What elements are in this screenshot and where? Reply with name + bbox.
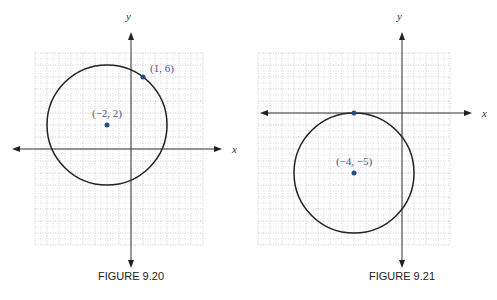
arrow-right-icon [464, 110, 472, 116]
grid [258, 53, 450, 245]
point-label: (−2, 2) [92, 107, 122, 120]
y-axis-label: y [125, 10, 131, 22]
figure-2: xy(−4, −5)FIGURE 9.21 [258, 10, 487, 282]
x-axis-label: x [481, 107, 487, 119]
point-label: (−4, −5) [336, 155, 373, 168]
point [352, 111, 357, 116]
arrow-down-icon [399, 260, 405, 268]
arrow-down-icon [128, 260, 134, 268]
arrow-up-icon [399, 32, 405, 40]
y-axis-label: y [396, 10, 402, 22]
arrow-up-icon [128, 32, 134, 40]
point-label: (1, 6) [150, 62, 174, 75]
figure-caption: FIGURE 9.20 [98, 270, 164, 282]
figure-caption: FIGURE 9.21 [369, 270, 435, 282]
point [352, 171, 357, 176]
arrow-right-icon [214, 146, 222, 152]
x-axis-label: x [231, 143, 237, 155]
figure-1: xy(−2, 2)(1, 6)FIGURE 9.20 [12, 10, 237, 282]
arrow-left-icon [12, 146, 20, 152]
point [141, 75, 146, 80]
figure-canvas: xy(−2, 2)(1, 6)FIGURE 9.20xy(−4, −5)FIGU… [0, 0, 497, 300]
point [105, 123, 110, 128]
